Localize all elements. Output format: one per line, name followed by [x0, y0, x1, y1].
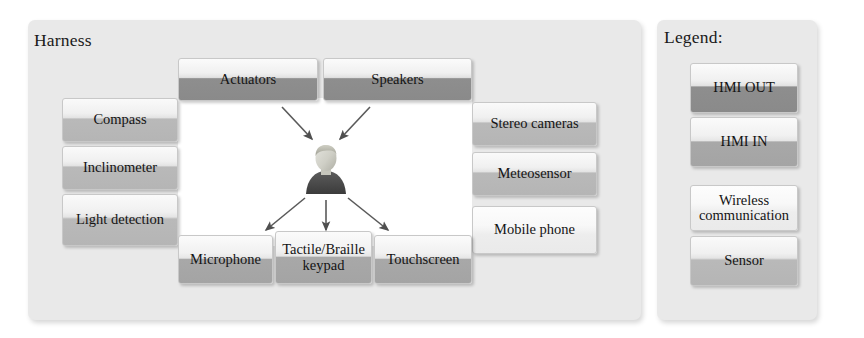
node-compass[interactable]: Compass	[62, 98, 178, 142]
node-label: Touchscreen	[383, 252, 462, 267]
node-actuators[interactable]: Actuators	[178, 58, 318, 101]
node-label: Mobile phone	[491, 222, 578, 237]
node-label: Tactile/Braille keypad	[279, 242, 368, 272]
node-mobile[interactable]: Mobile phone	[472, 206, 597, 254]
node-meteo[interactable]: Meteosensor	[472, 152, 597, 196]
node-light[interactable]: Light detection	[62, 194, 178, 246]
legend-item-legend-wireless[interactable]: Wireless communication	[690, 185, 798, 231]
harness-panel-title: Harness	[34, 30, 92, 51]
node-label: Actuators	[217, 72, 279, 87]
node-touchscreen[interactable]: Touchscreen	[374, 235, 472, 284]
legend-item-label: Sensor	[721, 253, 766, 268]
node-label: Speakers	[368, 72, 426, 87]
legend-item-legend-sensor[interactable]: Sensor	[690, 236, 798, 286]
node-speakers[interactable]: Speakers	[323, 58, 472, 101]
node-tactile[interactable]: Tactile/Braille keypad	[275, 231, 372, 284]
legend-item-label: Wireless communication	[696, 193, 792, 223]
node-stereo[interactable]: Stereo cameras	[472, 102, 597, 146]
legend-item-legend-hmi-out[interactable]: HMI OUT	[690, 63, 798, 113]
person-icon	[303, 144, 349, 196]
node-microphone[interactable]: Microphone	[178, 235, 273, 284]
node-label: Microphone	[187, 252, 264, 267]
node-label: Light detection	[73, 212, 167, 227]
legend-panel-title: Legend:	[664, 27, 723, 48]
diagram-canvas: Harness Legend:	[0, 0, 864, 338]
node-label: Compass	[90, 112, 149, 127]
node-inclinometer[interactable]: Inclinometer	[62, 146, 178, 190]
legend-item-legend-hmi-in[interactable]: HMI IN	[690, 117, 798, 167]
legend-item-label: HMI IN	[717, 134, 770, 149]
node-label: Inclinometer	[80, 160, 160, 175]
node-label: Stereo cameras	[487, 116, 581, 131]
legend-item-label: HMI OUT	[710, 80, 778, 95]
node-label: Meteosensor	[494, 166, 574, 181]
